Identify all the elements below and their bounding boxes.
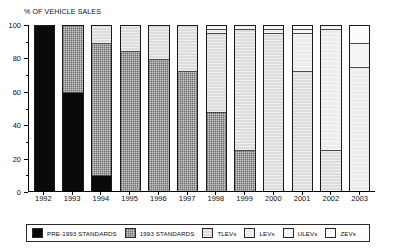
legend-swatch-std93 (125, 228, 136, 238)
stacked-bar-chart: % OF VEHICLE SALES 020406080100 19921993… (0, 0, 393, 252)
y-axis-tick-label: 0 (17, 188, 21, 197)
legend-item[interactable]: LEVs (244, 228, 274, 238)
legend-item[interactable]: ZEVs (325, 228, 356, 238)
x-axis-tick-label: 2002 (317, 194, 346, 208)
legend-item[interactable]: 1993 STANDARDS (125, 228, 195, 238)
legend-label: ULEVs (298, 230, 318, 237)
bar-slot (317, 25, 346, 191)
stacked-bar[interactable] (120, 25, 141, 191)
stacked-bar[interactable] (62, 25, 83, 191)
bar-segment-tlev[interactable] (264, 33, 283, 191)
x-axis-tick-label: 1994 (87, 194, 116, 208)
bar-segment-std93[interactable] (92, 43, 111, 175)
bar-segment-lev[interactable] (293, 33, 312, 71)
bar-segment-tlev[interactable] (235, 29, 254, 149)
bar-slot (116, 25, 145, 191)
bar-segment-tlev[interactable] (92, 26, 111, 43)
x-axis-tick-label: 1996 (144, 194, 173, 208)
stacked-bar[interactable] (206, 25, 227, 191)
bar-slot (345, 25, 374, 191)
y-axis-tick-label: 60 (13, 87, 21, 96)
bar-segment-std93[interactable] (63, 26, 82, 92)
x-axis-tick-label: 2003 (345, 194, 374, 208)
x-axis-tick-label: 1995 (115, 194, 144, 208)
stacked-bar[interactable] (148, 25, 169, 191)
bar-segment-std93[interactable] (207, 112, 226, 191)
bar-slot (202, 25, 231, 191)
chart-title: % OF VEHICLE SALES (24, 8, 101, 15)
chart-legend: PRE-1993 STANDARDS1993 STANDARDSTLEVsLEV… (26, 224, 370, 242)
bar-segment-std93[interactable] (149, 59, 168, 191)
legend-label: ZEVs (340, 230, 356, 237)
x-axis-tick-label: 1997 (173, 194, 202, 208)
x-axis-tick-label: 2000 (259, 194, 288, 208)
bar-segment-tlev[interactable] (178, 26, 197, 71)
legend-item[interactable]: PRE-1993 STANDARDS (32, 228, 117, 238)
bar-segment-tlev[interactable] (149, 26, 168, 59)
bar-slot (173, 25, 202, 191)
bar-segment-lev[interactable] (350, 67, 369, 191)
bar-segment-lev[interactable] (321, 29, 340, 149)
y-axis-tick-label: 80 (13, 54, 21, 63)
bar-slot (30, 25, 59, 191)
x-axis-tick-label: 2001 (288, 194, 317, 208)
stacked-bar[interactable] (320, 25, 341, 191)
bars-container (29, 25, 375, 191)
x-axis-tick-label: 1992 (29, 194, 58, 208)
y-axis: 020406080100 (0, 0, 28, 252)
legend-swatch-pre93 (32, 228, 43, 238)
bar-segment-std93[interactable] (121, 51, 140, 191)
bar-segment-pre93[interactable] (35, 26, 54, 191)
bar-segment-pre93[interactable] (92, 175, 111, 192)
x-axis-tick-label: 1998 (202, 194, 231, 208)
x-axis-labels: 1992199319941995199619971998199920002001… (28, 194, 375, 208)
stacked-bar[interactable] (263, 25, 284, 191)
bar-segment-std93[interactable] (235, 150, 254, 191)
plot-area (28, 25, 375, 192)
legend-swatch-ulev (283, 228, 294, 238)
stacked-bar[interactable] (34, 25, 55, 191)
bar-slot (87, 25, 116, 191)
bar-segment-zev[interactable] (350, 26, 369, 43)
legend-label: TLEVs (217, 230, 236, 237)
x-axis-tick-label: 1993 (58, 194, 87, 208)
bar-segment-pre93[interactable] (63, 92, 82, 191)
bar-segment-tlev[interactable] (293, 71, 312, 191)
legend-label: 1993 STANDARDS (140, 230, 195, 237)
legend-item[interactable]: TLEVs (202, 228, 236, 238)
y-axis-tick-label: 40 (13, 121, 21, 130)
legend-swatch-lev (244, 228, 255, 238)
bar-slot (59, 25, 88, 191)
stacked-bar[interactable] (234, 25, 255, 191)
bar-slot (259, 25, 288, 191)
y-axis-tick-label: 100 (8, 21, 21, 30)
stacked-bar[interactable] (292, 25, 313, 191)
bar-segment-tlev[interactable] (121, 26, 140, 51)
stacked-bar[interactable] (349, 25, 370, 191)
legend-swatch-zev (325, 228, 336, 238)
legend-swatch-tlev (202, 228, 213, 238)
bar-segment-tlev[interactable] (321, 150, 340, 191)
legend-label: LEVs (259, 230, 274, 237)
bar-segment-ulev[interactable] (350, 43, 369, 68)
bar-slot (145, 25, 174, 191)
bar-segment-std93[interactable] (178, 71, 197, 191)
stacked-bar[interactable] (91, 25, 112, 191)
bar-slot (231, 25, 260, 191)
stacked-bar[interactable] (177, 25, 198, 191)
bar-slot (288, 25, 317, 191)
legend-label: PRE-1993 STANDARDS (47, 230, 117, 237)
bar-segment-tlev[interactable] (207, 33, 226, 112)
x-axis-tick-label: 1999 (230, 194, 259, 208)
legend-item[interactable]: ULEVs (283, 228, 318, 238)
y-axis-tick-label: 20 (13, 154, 21, 163)
